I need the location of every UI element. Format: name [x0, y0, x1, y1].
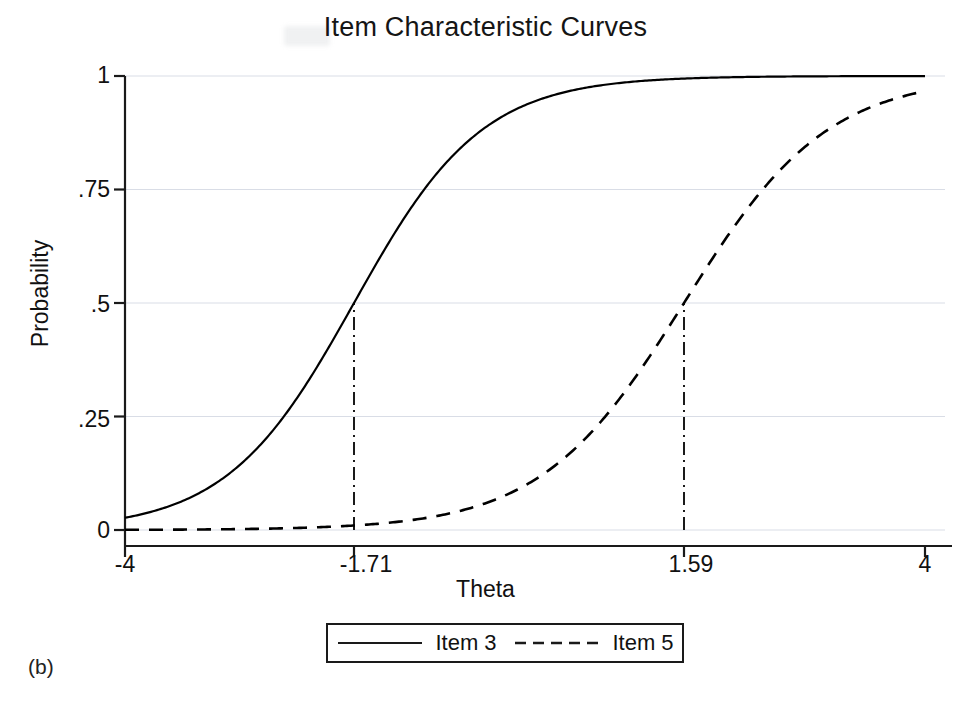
panel-label: (b) [28, 655, 54, 679]
legend-swatch-solid [336, 636, 424, 650]
legend-swatch-dashed [513, 636, 601, 650]
legend-label-item-3: Item 3 [435, 630, 496, 656]
axis-lines [125, 76, 952, 546]
y-tick-label-1: 1 [40, 62, 110, 89]
x-tick-label-neg4: -4 [85, 551, 165, 578]
y-tick-label-0: 0 [40, 517, 110, 544]
x-axis-title: Theta [0, 576, 971, 603]
curve-item-5 [125, 91, 925, 530]
x-tick-label-159: 1.59 [641, 551, 741, 578]
x-tick-label-neg171: -1.71 [311, 551, 421, 578]
figure-panel: Item Characteristic Curves 1 .75 .5 .25 … [0, 0, 971, 707]
gridlines [125, 76, 945, 530]
y-tick-label-025: .25 [40, 406, 110, 433]
legend-entry-item-3[interactable]: Item 3 [336, 630, 496, 656]
x-tick-label-4: 4 [885, 551, 965, 578]
legend-entry-item-5[interactable]: Item 5 [513, 630, 673, 656]
curve-item-3 [125, 76, 925, 518]
y-tick-label-075: .75 [40, 176, 110, 203]
legend: Item 3 Item 5 [326, 623, 684, 663]
legend-label-item-5: Item 5 [612, 630, 673, 656]
y-axis-title: Probability [27, 214, 54, 374]
